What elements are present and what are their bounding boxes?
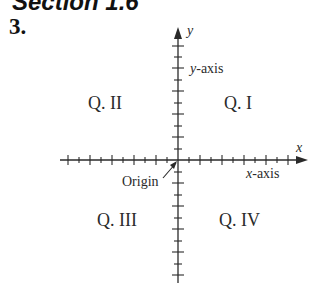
quadrant-1-label: Q. I bbox=[224, 93, 252, 113]
origin-label: Origin bbox=[122, 174, 159, 189]
x-axis-arrow-icon bbox=[296, 156, 308, 164]
quadrant-2-label: Q. II bbox=[88, 93, 122, 113]
x-axis-label: x bbox=[295, 140, 303, 155]
y-axis-label: y bbox=[185, 23, 194, 38]
origin-arrow-icon bbox=[170, 161, 177, 169]
quadrant-3-label: Q. III bbox=[97, 210, 137, 230]
coordinate-plane: y x y-axis x-axis Origin Q. II Q. I Q. I… bbox=[0, 0, 324, 287]
y-axis-name: y-axis bbox=[188, 61, 223, 76]
y-axis-arrow-icon bbox=[174, 27, 182, 39]
quadrant-4-label: Q. IV bbox=[219, 210, 260, 230]
x-axis-name: x-axis bbox=[245, 166, 279, 181]
